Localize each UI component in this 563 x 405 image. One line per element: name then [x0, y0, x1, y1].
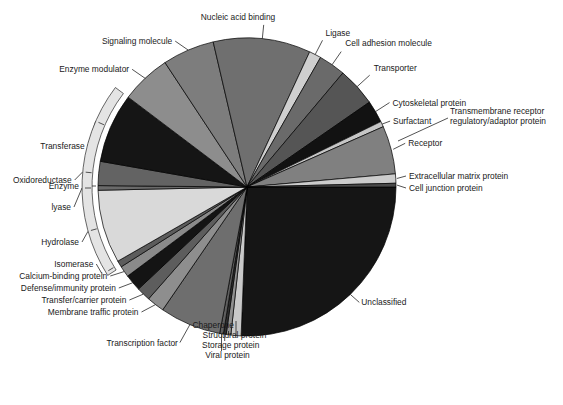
enzyme-bracket-tick-oxidoreductase [86, 172, 92, 173]
label-viral-protein: Viral protein [205, 350, 250, 360]
leader-line-oxidoreductase [75, 172, 83, 180]
leader-line-unclassified [350, 294, 359, 302]
leader-line-cytoskeletal-protein [376, 103, 390, 112]
label-cell-junction-protein: Cell junction protein [409, 183, 483, 193]
leader-line-enzyme-modulator [132, 69, 145, 78]
label-defense-immunity-protein: Defense/immunity protein [21, 283, 116, 293]
leader-line-hydrolase [82, 231, 88, 242]
leader-line-signaling-molecule [175, 41, 188, 50]
label-transfer-carrier-protein: Transfer/carrier protein [42, 295, 127, 305]
label-transporter: Transporter [374, 63, 417, 73]
leader-line-transcription-factor [180, 325, 190, 343]
label-enzyme-modulator: Enzyme modulator [59, 64, 129, 74]
label-receptor: Receptor [408, 138, 442, 148]
label-signaling-molecule: Signaling molecule [102, 36, 173, 46]
label-membrane-traffic-protein: Membrane traffic protein [48, 307, 139, 317]
leader-line-surfactant [382, 121, 390, 124]
label-calcium-binding-protein: Calcium-binding protein [19, 271, 107, 281]
leader-line-cell-adhesion-molecule [332, 52, 341, 65]
label-nucleic-acid-binding: Nucleic acid binding [201, 12, 276, 22]
label-surfactant: Surfactant [393, 116, 432, 126]
label-hydrolase: Hydrolase [41, 237, 79, 247]
protein-class-pie-chart: Nucleic acid bindingLigaseCell adhesion … [0, 0, 563, 405]
pie-slice-unclassified[interactable] [241, 187, 396, 336]
leader-line-transporter [357, 75, 370, 87]
leader-line-membrane-traffic-protein [142, 305, 156, 312]
leader-line-extracellular-matrix-protein [397, 176, 406, 179]
label-storage-protein: Storage protein [202, 340, 260, 350]
label-unclassified: Unclassified [361, 297, 406, 307]
leader-line-nucleic-acid-binding [262, 25, 263, 39]
label-isomerase: Isomerase [54, 259, 93, 269]
pie-wedge-group [98, 38, 396, 336]
pie-chart-figure: Nucleic acid bindingLigaseCell adhesion … [0, 0, 563, 405]
label-cell-adhesion-molecule: Cell adhesion molecule [345, 38, 432, 48]
label-chaperone: Chaperone [193, 320, 235, 330]
label-transcription-factor: Transcription factor [107, 338, 179, 348]
label-transmembrane-receptor-line2: regulatory/adaptor protein [450, 116, 546, 126]
leader-line-cell-junction-protein [397, 185, 406, 188]
label-structural-protein: Structural protein [203, 330, 267, 340]
label-extracellular-matrix-protein: Extracellular matrix protein [409, 171, 508, 181]
label-transmembrane-receptor-line1: Transmembrane receptor [450, 106, 544, 116]
label-enzyme: Enzyme [49, 181, 80, 191]
leader-line-receptor [393, 143, 405, 149]
leader-line-defense-immunity-protein [119, 283, 133, 288]
leader-line-transfer-carrier-protein [129, 294, 143, 300]
leader-line-ligase [315, 40, 322, 54]
label-transferase: Transferase [40, 141, 85, 151]
label-lyase: lyase [51, 202, 71, 212]
